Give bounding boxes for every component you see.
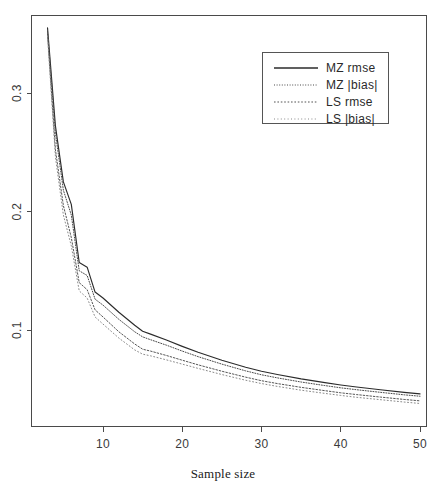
y-tick-label: 0.1	[10, 321, 24, 339]
x-tick-label: 30	[254, 437, 268, 451]
x-tick-label: 40	[334, 437, 348, 451]
legend-label-3: LS |bias|	[326, 112, 375, 126]
x-tick-label: 50	[413, 437, 427, 451]
chart-legend: MZ rmseMZ |bias|LS rmseLS |bias|	[263, 53, 389, 127]
chart-figure: 0.10.20.3 1020304050 MZ rmseMZ |bias|LS …	[0, 0, 446, 497]
y-tick-label: 0.2	[10, 203, 24, 221]
legend-label-0: MZ rmse	[326, 61, 375, 75]
y-axis-ticks: 0.10.20.3	[10, 84, 31, 339]
x-tick-label: 10	[96, 437, 110, 451]
x-axis-ticks: 1020304050	[96, 427, 427, 451]
legend-label-1: MZ |bias|	[326, 78, 378, 92]
y-tick-label: 0.3	[10, 84, 24, 102]
legend-label-2: LS rmse	[326, 95, 373, 109]
x-axis-title: Sample size	[191, 466, 256, 481]
x-tick-label: 20	[175, 437, 189, 451]
line-chart-canvas: 0.10.20.3 1020304050 MZ rmseMZ |bias|LS …	[0, 0, 446, 497]
